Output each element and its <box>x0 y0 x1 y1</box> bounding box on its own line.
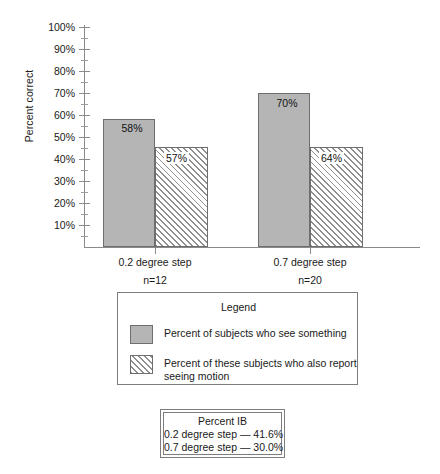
x-category-n-2: n=20 <box>250 274 370 286</box>
y-minor-tick-35 <box>81 170 88 171</box>
y-minor-tick-55 <box>81 126 88 127</box>
y-tick-70 <box>79 93 90 94</box>
y-tick-60 <box>79 115 90 116</box>
percent-ib-title: Percent IB <box>164 415 281 428</box>
y-tick-label-40: 40% <box>0 153 75 165</box>
bar-group1-solid[interactable] <box>103 119 155 247</box>
legend-label-solid: Percent of subjects who see something <box>164 327 364 340</box>
y-tick-label-80: 80% <box>0 65 75 77</box>
x-tick-group1 <box>155 248 156 254</box>
chart-figure: Percent correct 100% 90% 80% 70% 60% 50%… <box>0 0 440 474</box>
legend-box: Legend Percent of subjects who see somet… <box>117 292 358 385</box>
y-tick-label-30: 30% <box>0 175 75 187</box>
legend-label-hatch: Percent of these subjects who also repor… <box>164 357 364 382</box>
y-tick-label-100: 100% <box>0 21 75 33</box>
bar-label-group2-solid: 70% <box>265 97 309 109</box>
bar-label-group1-solid: 58% <box>110 122 154 134</box>
legend-swatch-solid-icon <box>130 325 153 344</box>
x-axis-line <box>84 247 420 248</box>
y-tick-label-70: 70% <box>0 87 75 99</box>
y-tick-40 <box>79 159 90 160</box>
y-tick-label-60: 60% <box>0 109 75 121</box>
y-tick-10 <box>79 225 90 226</box>
legend-title: Legend <box>118 301 359 313</box>
y-tick-80 <box>79 71 90 72</box>
y-tick-20 <box>79 203 90 204</box>
y-tick-label-90: 90% <box>0 43 75 55</box>
plot-area: Percent correct 100% 90% 80% 70% 60% 50%… <box>0 0 440 290</box>
y-minor-tick-65 <box>81 104 88 105</box>
y-tick-label-50: 50% <box>0 131 75 143</box>
y-minor-tick-75 <box>81 82 88 83</box>
percent-ib-line-2: 0.7 degree step — 30.0% <box>164 441 281 454</box>
y-tick-label-20: 20% <box>0 197 75 209</box>
y-minor-tick-25 <box>81 192 88 193</box>
bar-label-group1-hatch: 57% <box>164 152 189 164</box>
y-tick-30 <box>79 181 90 182</box>
bar-group2-solid[interactable] <box>258 93 310 247</box>
x-category-label-1: 0.2 degree step <box>95 256 215 268</box>
y-minor-tick-5 <box>81 236 88 237</box>
y-tick-100 <box>79 27 90 28</box>
y-tick-90 <box>79 49 90 50</box>
x-category-label-2: 0.7 degree step <box>250 256 370 268</box>
percent-ib-box: Percent IB 0.2 degree step — 41.6% 0.7 d… <box>160 409 285 458</box>
percent-ib-inner-frame: Percent IB 0.2 degree step — 41.6% 0.7 d… <box>163 412 282 455</box>
legend-swatch-hatch-icon <box>130 355 153 374</box>
y-tick-label-10: 10% <box>0 219 75 231</box>
x-category-n-1: n=12 <box>95 274 215 286</box>
percent-ib-line-1: 0.2 degree step — 41.6% <box>164 428 281 441</box>
y-tick-50 <box>79 137 90 138</box>
y-minor-tick-45 <box>81 148 88 149</box>
y-minor-tick-95 <box>81 38 88 39</box>
x-tick-group2 <box>310 248 311 254</box>
bar-label-group2-hatch: 64% <box>319 152 344 164</box>
y-minor-tick-85 <box>81 60 88 61</box>
y-minor-tick-15 <box>81 214 88 215</box>
